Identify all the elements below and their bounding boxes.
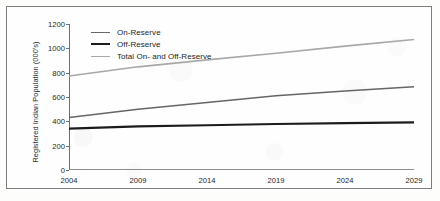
y-tick-label: 0 bbox=[61, 166, 65, 175]
y-tick-label: 1000 bbox=[48, 44, 65, 53]
legend-item[interactable]: Off-Reserve bbox=[91, 38, 211, 50]
legend-item[interactable]: On-Reserve bbox=[91, 26, 211, 38]
y-tick-label: 1200 bbox=[48, 20, 65, 29]
plot-inner: 020040060080010001200 200420092014201920… bbox=[69, 24, 414, 170]
y-tick-label: 200 bbox=[52, 141, 65, 150]
series-line bbox=[69, 87, 414, 118]
x-tick-label: 2029 bbox=[406, 176, 423, 185]
x-tick-label: 2014 bbox=[199, 176, 216, 185]
legend-item-label: On-Reserve bbox=[117, 28, 161, 37]
figure-frame: Registered Indian Population (000's) 020… bbox=[6, 6, 432, 189]
y-axis-title: Registered Indian Population (000's) bbox=[29, 27, 43, 177]
y-tick-label: 600 bbox=[52, 93, 65, 102]
legend-item[interactable]: Total On- and Off-Reserve bbox=[91, 50, 211, 62]
y-tick-mark bbox=[66, 170, 69, 171]
x-tick-label: 2004 bbox=[61, 176, 78, 185]
x-tick-label: 2009 bbox=[130, 176, 147, 185]
legend-item-label: Total On- and Off-Reserve bbox=[117, 52, 211, 61]
legend-line-swatch bbox=[91, 56, 110, 57]
plot-area: 020040060080010001200 200420092014201920… bbox=[69, 24, 414, 170]
chart-figure: Registered Indian Population (000's) 020… bbox=[0, 0, 440, 201]
chart-legend: On-ReserveOff-ReserveTotal On- and Off-R… bbox=[91, 26, 211, 62]
y-tick-label: 400 bbox=[52, 117, 65, 126]
series-line bbox=[69, 122, 414, 128]
legend-line-swatch bbox=[91, 43, 110, 45]
legend-line-swatch bbox=[91, 32, 110, 33]
x-tick-label: 2019 bbox=[268, 176, 285, 185]
y-tick-label: 800 bbox=[52, 68, 65, 77]
x-tick-label: 2024 bbox=[337, 176, 354, 185]
legend-item-label: Off-Reserve bbox=[117, 40, 161, 49]
